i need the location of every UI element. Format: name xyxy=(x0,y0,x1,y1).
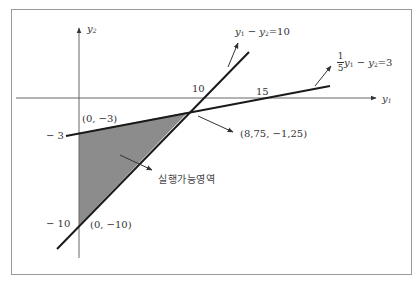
tick-y-minus10: − 10 xyxy=(46,219,70,229)
constraint-2-fraction: 1 5 xyxy=(337,52,344,73)
diagram-canvas xyxy=(0,0,420,286)
arrow-intersection xyxy=(198,116,233,132)
tick-x-10: 10 xyxy=(192,84,205,94)
linear-programming-diagram: y2 y1 10 15 − 3 − 10 y1 − y2=10 1 5 y1 −… xyxy=(0,0,420,286)
arrow-line2-label xyxy=(315,66,331,86)
y2-axis-label: y2 xyxy=(87,24,96,34)
feasible-region xyxy=(79,112,188,225)
tick-x-15: 15 xyxy=(256,87,269,97)
constraint-1-label: y1 − y2=10 xyxy=(235,27,290,37)
feasible-region-label: 실행가능영역 xyxy=(158,175,215,185)
constraint-2-label: y1 − y2=3 xyxy=(344,58,392,68)
point-0-minus10-label: (0, −10) xyxy=(90,220,132,230)
tick-y-minus3: − 3 xyxy=(46,131,64,141)
point-0-minus3-label: (0, −3) xyxy=(82,114,117,124)
point-intersection-label: (8,75, −1,25) xyxy=(240,129,307,139)
y1-axis-label: y1 xyxy=(382,94,391,104)
